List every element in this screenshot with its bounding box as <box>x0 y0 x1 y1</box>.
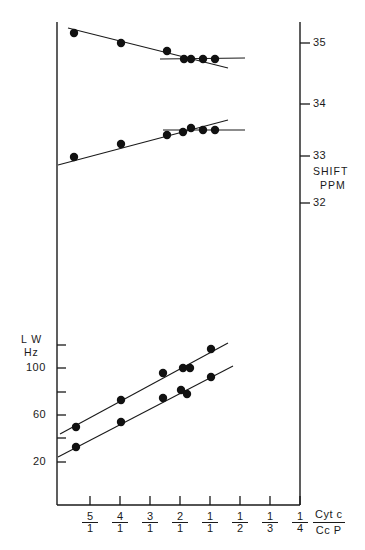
x-tick-label-1-4: 1 4 <box>292 511 308 534</box>
right-axis-ticks <box>300 43 310 203</box>
right-axis-tick-label-32: 32 <box>313 196 326 208</box>
data-point <box>117 39 125 47</box>
data-point <box>199 55 207 63</box>
x-tick-denominator: 1 <box>112 523 128 534</box>
scatter-plot-svg <box>0 0 365 550</box>
x-tick-label-1-2: 1 2 <box>232 511 248 534</box>
right-axis-tick-label-33: 33 <box>313 149 326 161</box>
x-tick-label-1-3: 1 3 <box>262 511 278 534</box>
axis-frame <box>57 22 300 505</box>
right-axis-tick-label-34: 34 <box>313 97 326 109</box>
data-point <box>163 47 171 55</box>
data-point <box>117 396 125 404</box>
x-axis-title-numerator: Cyt c <box>313 508 345 523</box>
x-tick-label-2-1: 2 1 <box>172 511 188 534</box>
data-point <box>72 423 80 431</box>
left-axis-tick-label-20: 20 <box>33 455 46 467</box>
x-tick-denominator: 1 <box>82 523 98 534</box>
data-point <box>117 418 125 426</box>
x-tick-denominator: 1 <box>172 523 188 534</box>
x-tick-label-5-1: 5 1 <box>82 511 98 534</box>
left-axis-title-line2: Hz <box>24 346 39 359</box>
data-point <box>159 394 167 402</box>
data-point <box>211 126 219 134</box>
left-axis-title-line1: L W <box>21 333 42 346</box>
figure-container: 35 34 33 32 SHIFT PPM L W Hz 100 60 20 5… <box>0 0 365 550</box>
x-tick-label-1-1: 1 1 <box>202 511 218 534</box>
x-tick-label-4-1: 4 1 <box>112 511 128 534</box>
trend-lines <box>58 28 245 457</box>
bottom-axis-ticks <box>90 496 300 505</box>
x-axis-title: Cyt c Cc P <box>313 508 345 537</box>
x-axis-title-denominator: Cc P <box>313 523 345 537</box>
left-axis-tick-label-60: 60 <box>33 408 46 420</box>
left-axis-tick-label-100: 100 <box>26 361 46 373</box>
data-point <box>207 345 215 353</box>
x-tick-denominator: 1 <box>202 523 218 534</box>
x-tick-denominator: 2 <box>232 523 248 534</box>
data-point <box>187 55 195 63</box>
data-point <box>187 124 195 132</box>
x-tick-label-3-1: 3 1 <box>142 511 158 534</box>
data-point <box>163 131 171 139</box>
data-point <box>70 29 78 37</box>
data-point <box>179 128 187 136</box>
data-point <box>72 443 80 451</box>
trend-line-lw-lower <box>58 366 233 457</box>
trend-line-lw-upper <box>60 343 228 434</box>
right-axis-title-line1: SHIFT <box>313 165 348 178</box>
x-tick-denominator: 4 <box>292 523 308 534</box>
right-axis-tick-label-35: 35 <box>313 36 326 48</box>
left-axis-ticks <box>57 345 66 462</box>
data-point <box>117 140 125 148</box>
data-point <box>70 153 78 161</box>
data-point <box>199 126 207 134</box>
series-lw-upper-markers <box>72 345 215 431</box>
data-point <box>159 369 167 377</box>
data-point <box>186 364 194 372</box>
data-point <box>207 373 215 381</box>
data-point <box>183 390 191 398</box>
x-tick-denominator: 1 <box>142 523 158 534</box>
data-point <box>211 55 219 63</box>
x-tick-denominator: 3 <box>262 523 278 534</box>
right-axis-title-line2: PPM <box>320 179 346 192</box>
